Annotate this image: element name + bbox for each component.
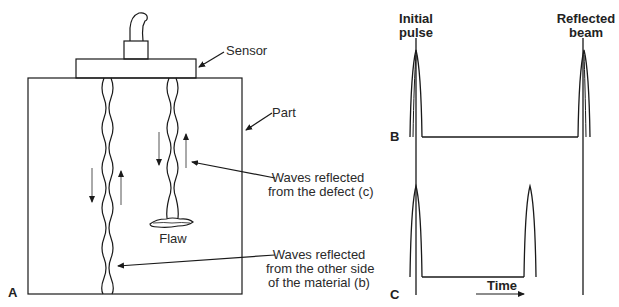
backwall-reflection-caption: Waves reflected from the other side of t…	[266, 248, 372, 290]
sensor-cable	[130, 13, 147, 41]
panel-a-letter: A	[8, 285, 17, 300]
backwall-reflection-line2: from the other side	[266, 262, 372, 276]
reflected-beam-label: Reflected beam	[556, 12, 616, 40]
backwall-wave-left	[102, 78, 106, 294]
part-label: Part	[272, 106, 296, 120]
initial-pulse-label: Initial pulse	[396, 12, 436, 40]
sensor-body	[76, 59, 196, 78]
defect-wave-right	[174, 78, 178, 218]
sensor-leader	[199, 52, 224, 67]
panel-b-letter: B	[390, 129, 399, 144]
flaw-label: Flaw	[155, 232, 191, 246]
initial-pulse-line1: Initial	[396, 12, 436, 26]
defect-leader	[192, 162, 275, 178]
sensor-connector	[124, 41, 148, 59]
panel-c-letter: C	[390, 287, 399, 302]
defect-wave-left	[167, 78, 171, 218]
backwall-reflection-line3: of the material (b)	[266, 276, 372, 290]
reflected-beam-line2: beam	[556, 26, 616, 40]
initial-pulse-line2: pulse	[396, 26, 436, 40]
defect-reflection-line1: Waves reflected	[268, 171, 368, 185]
reflected-beam-line1: Reflected	[556, 12, 616, 26]
part-leader	[246, 113, 272, 130]
backwall-wave-right	[109, 78, 113, 294]
part-block	[28, 78, 242, 294]
panel-bc-traces	[410, 38, 590, 295]
defect-reflection-line2: from the defect (c)	[268, 185, 368, 199]
backwall-leader	[118, 255, 275, 266]
backwall-reflection-line1: Waves reflected	[266, 248, 372, 262]
defect-reflection-caption: Waves reflected from the defect (c)	[268, 171, 368, 199]
c-flaw-echo	[524, 186, 536, 277]
sensor-label: Sensor	[226, 44, 267, 58]
time-axis-label: Time	[484, 279, 520, 293]
